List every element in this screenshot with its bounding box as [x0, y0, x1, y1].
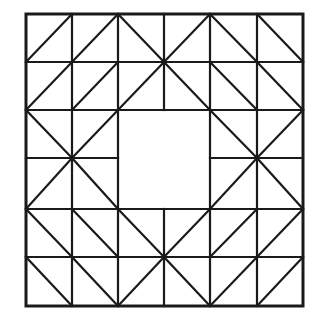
quilt-block-pattern-svg — [0, 0, 322, 334]
quilt-block-figure — [0, 0, 322, 334]
figure-background — [0, 0, 322, 334]
